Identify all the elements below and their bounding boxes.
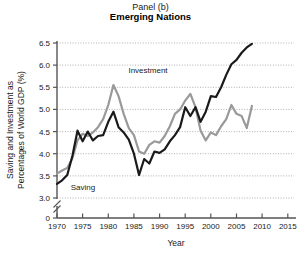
y-tick-4-5: 4.5: [39, 128, 51, 137]
y-axis-title: Saving and Investment as Percentages of …: [5, 71, 26, 189]
x-axis: [57, 214, 296, 219]
x-tick-2010: 2010: [253, 222, 271, 231]
y-axis-title-line2: Percentages of World GDP (%): [16, 71, 26, 189]
x-tick-1995: 1995: [176, 222, 194, 231]
saving-label: Saving: [71, 183, 95, 192]
y-tick-6-5: 6.5: [39, 39, 51, 48]
x-tick-2005: 2005: [228, 222, 246, 231]
investment-label: Investment: [128, 66, 168, 75]
investment-line: [57, 85, 252, 174]
y-axis: [53, 41, 57, 218]
y-tick-5-5: 5.5: [39, 83, 51, 92]
y-tick-4-0: 4.0: [39, 150, 51, 159]
x-axis-title: Year: [167, 238, 184, 248]
x-tick-2000: 2000: [202, 222, 220, 231]
x-tick-labels: 1970 1975 1980 1985 1990 1995 2000 2005 …: [48, 222, 297, 231]
y-tick-3-0: 3.0: [39, 194, 51, 203]
x-tick-1990: 1990: [151, 222, 169, 231]
x-tick-1970: 1970: [48, 222, 66, 231]
gridlines: [57, 43, 294, 198]
x-tick-1975: 1975: [74, 222, 92, 231]
y-tick-5-0: 5.0: [39, 105, 51, 114]
chart-figure: Panel (b) Emerging Nations: [0, 0, 301, 253]
y-tick-3-5: 3.5: [39, 172, 51, 181]
chart-plot-area: 6.5 6.0 5.5 5.0 4.5 4.0 3.5 3.0 0 Saving…: [0, 0, 301, 253]
y-axis-title-line1: Saving and Investment as: [5, 81, 15, 179]
x-tick-1985: 1985: [125, 222, 143, 231]
y-tick-labels: 6.5 6.0 5.5 5.0 4.5 4.0 3.5 3.0 0: [39, 39, 51, 223]
y-tick-6-0: 6.0: [39, 61, 51, 70]
x-tick-1980: 1980: [99, 222, 117, 231]
x-tick-2015: 2015: [279, 222, 297, 231]
